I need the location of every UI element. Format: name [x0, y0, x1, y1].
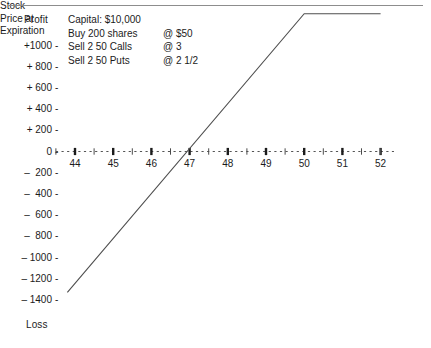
plot-area	[0, 0, 431, 348]
payoff-chart: Profit Loss Capital: $10,000 Buy 200 sha…	[0, 0, 431, 348]
